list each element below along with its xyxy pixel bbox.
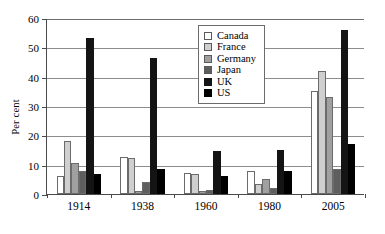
bar <box>128 158 135 194</box>
bar <box>157 169 164 194</box>
x-tick-mark <box>365 194 366 198</box>
x-tick-mark <box>111 194 112 198</box>
bar <box>333 169 340 194</box>
x-tick-label: 2005 <box>322 201 345 213</box>
bar <box>94 174 101 194</box>
legend-item-germany[interactable]: Germany <box>204 53 256 65</box>
bar <box>191 174 198 194</box>
legend-swatch-icon <box>204 78 212 86</box>
bar <box>64 141 71 194</box>
bar <box>199 191 206 194</box>
legend-item-us[interactable]: US <box>204 88 256 100</box>
legend-swatch-icon <box>204 89 212 97</box>
bar-group <box>311 19 355 194</box>
y-tick-label: 30 <box>28 102 39 113</box>
bar <box>318 71 325 194</box>
y-tick-label: 0 <box>34 190 40 201</box>
x-tick-label: 1938 <box>131 201 154 213</box>
bar <box>142 182 149 194</box>
x-tick-mark <box>47 194 48 198</box>
bar <box>86 38 93 194</box>
x-tick-mark <box>174 194 175 198</box>
bar <box>71 163 78 194</box>
legend-swatch-icon <box>204 43 212 51</box>
y-tick-label: 60 <box>28 14 39 25</box>
y-tick-label: 20 <box>28 131 39 142</box>
legend-item-canada[interactable]: Canada <box>204 30 256 42</box>
bar <box>79 171 86 194</box>
x-tick-mark <box>238 194 239 198</box>
bar <box>255 184 262 194</box>
bar-group <box>120 19 164 194</box>
bar <box>206 190 213 194</box>
bar <box>277 150 284 194</box>
legend-swatch-icon <box>204 66 212 74</box>
x-tick-label: 1914 <box>67 201 90 213</box>
legend-item-label: Japan <box>217 65 241 76</box>
legend: CanadaFranceGermanyJapanUKUS <box>198 25 265 104</box>
bar <box>135 191 142 194</box>
bar-group <box>57 19 101 194</box>
legend-item-france[interactable]: France <box>204 42 256 54</box>
x-tick-mark <box>301 194 302 198</box>
bar <box>326 97 333 194</box>
x-tick-label: 1980 <box>258 201 281 213</box>
y-axis-title-label: Per cent <box>10 99 21 135</box>
bar <box>120 157 127 194</box>
legend-item-label: Canada <box>217 31 249 42</box>
bar <box>150 58 157 194</box>
legend-item-uk[interactable]: UK <box>204 76 256 88</box>
bar-chart: Per cent 0102030405060 19141938196019802… <box>0 0 385 234</box>
legend-item-label: UK <box>217 77 232 88</box>
bar <box>221 176 228 194</box>
legend-item-label: Germany <box>217 54 256 65</box>
bar <box>311 91 318 194</box>
legend-item-label: US <box>217 88 230 99</box>
y-tick-label: 40 <box>28 72 39 83</box>
legend-item-label: France <box>217 42 246 53</box>
x-tick-label: 1960 <box>195 201 218 213</box>
bar <box>247 171 254 194</box>
bar <box>57 176 64 194</box>
bar <box>270 188 277 194</box>
legend-swatch-icon <box>204 55 212 63</box>
bar <box>341 30 348 194</box>
y-tick-label: 50 <box>28 43 39 54</box>
bar <box>184 173 191 194</box>
y-tick-label: 10 <box>28 160 39 171</box>
bar <box>284 171 291 194</box>
bar <box>348 144 355 194</box>
bar <box>262 179 269 194</box>
bar <box>213 151 220 194</box>
legend-item-japan[interactable]: Japan <box>204 65 256 77</box>
legend-swatch-icon <box>204 32 212 40</box>
